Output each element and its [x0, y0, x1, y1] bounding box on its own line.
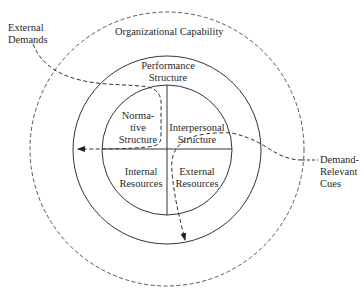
interpersonal-structure-label: Interpersonal Structure: [166, 122, 228, 146]
external-demands-label: External Demands: [8, 22, 48, 46]
demand-relevant-cues-label: Demand- Relevant Cues: [320, 154, 359, 190]
internal-resources-label: Internal Resources: [118, 166, 164, 190]
organizational-capability-diagram: [0, 0, 364, 298]
organizational-capability-label: Organizational Capability: [115, 26, 224, 38]
performance-structure-label: Performance Structure: [137, 60, 199, 84]
normative-structure-label: Norma- tive Structure: [118, 110, 158, 146]
external-resources-label: External Resources: [172, 166, 222, 190]
